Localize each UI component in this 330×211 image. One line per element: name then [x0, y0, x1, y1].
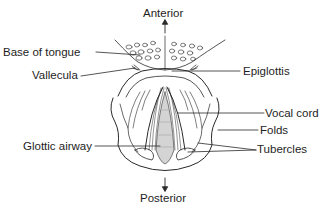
- anterior-arrow-icon: [163, 20, 168, 34]
- label-base-of-tongue: Base of tongue: [3, 47, 80, 59]
- label-posterior: Posterior: [140, 193, 186, 205]
- glottic-airway-shape: [156, 92, 174, 164]
- base-of-tongue-shape: [115, 36, 225, 70]
- glottis-diagram: Anterior Posterior Base of tongue Vallec…: [0, 0, 330, 211]
- label-folds: Folds: [260, 125, 288, 137]
- tubercles-leader-1: [188, 150, 256, 152]
- label-tubercles: Tubercles: [257, 144, 307, 156]
- label-anterior: Anterior: [143, 8, 183, 20]
- glottis-illustration: [0, 0, 330, 211]
- label-glottic-airway: Glottic airway: [23, 141, 92, 153]
- label-vocal-cord: Vocal cord: [265, 108, 319, 120]
- vallecula-leader: [81, 68, 135, 76]
- label-vallecula: Vallecula: [32, 70, 78, 82]
- tubercles-leader-2: [198, 143, 256, 150]
- base-of-tongue-leader: [96, 52, 140, 55]
- label-epiglottis: Epiglottis: [243, 66, 290, 78]
- posterior-arrow-icon: [163, 178, 168, 192]
